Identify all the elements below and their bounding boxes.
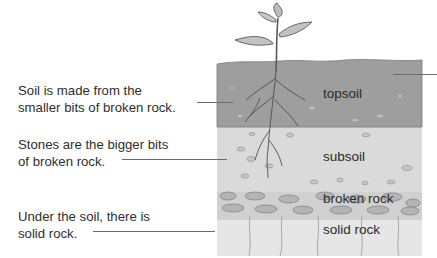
caption-stones-line1: Stones are the bigger bits [18,136,168,153]
leader-line-soil [197,102,233,103]
caption-stones: Stones are the bigger bits of broken roc… [18,136,168,170]
label-broken-rock: broken rock [323,191,394,206]
label-subsoil: subsoil [323,149,365,164]
caption-stones-line2: of broken rock. [18,153,168,170]
caption-soil-line2: smaller bits of broken rock. [18,99,176,116]
label-topsoil: topsoil [323,86,362,101]
leader-line-topsoil-right [393,74,437,75]
caption-soil-line1: Soil is made from the [18,82,176,99]
caption-solid-rock-line1: Under the soil, there is [18,208,150,225]
caption-soil: Soil is made from the smaller bits of br… [18,82,176,116]
caption-solid-rock: Under the soil, there is solid rock. [18,208,150,242]
topsoil-layer [217,59,422,127]
caption-solid-rock-line2: solid rock. [18,225,150,242]
label-solid-rock: solid rock [323,222,380,237]
solid-rock-layer [217,216,422,256]
